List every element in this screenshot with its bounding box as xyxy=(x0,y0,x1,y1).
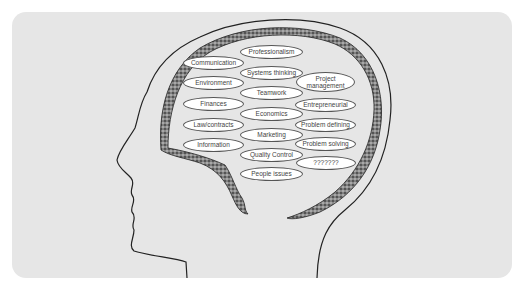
concept-bubble: Problem defining xyxy=(295,118,356,132)
concept-bubble: People issues xyxy=(240,167,303,181)
concept-bubble: Communication xyxy=(183,56,244,70)
head-illustration xyxy=(0,0,525,291)
concept-bubble: Quality Control xyxy=(240,148,303,162)
concept-bubble: Economics xyxy=(240,107,303,121)
concept-bubble: Finances xyxy=(183,97,244,111)
concept-bubble: Teamwork xyxy=(240,86,303,100)
concept-bubble: Information xyxy=(183,138,244,152)
concept-bubble: Problem solving xyxy=(295,137,356,151)
concept-bubble: Marketing xyxy=(240,128,303,142)
concept-bubble: Professionalism xyxy=(240,45,303,59)
concept-bubble: Environment xyxy=(183,76,244,90)
concept-bubble: Law/contracts xyxy=(183,118,244,132)
concept-bubble: Systems thinking xyxy=(240,66,303,80)
concept-bubble: Entrepreneurial xyxy=(295,98,356,112)
concept-bubble: ??????? xyxy=(296,156,356,170)
concept-bubble: Projectmanagement xyxy=(296,72,355,92)
